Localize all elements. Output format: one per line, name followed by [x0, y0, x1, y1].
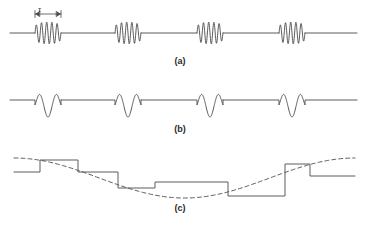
- panel-label-b: (b): [160, 124, 200, 134]
- panel-b-waveform: [10, 94, 357, 117]
- figure-root: (a) (b) (c) τ: [0, 0, 367, 228]
- waveform-canvas: [0, 0, 367, 228]
- tau-symbol-label: τ: [38, 4, 41, 14]
- panel-c-staircase: [14, 160, 355, 196]
- panel-label-c: (c): [160, 203, 200, 213]
- panel-a-waveform: [10, 22, 357, 44]
- panel-label-a: (a): [160, 56, 200, 66]
